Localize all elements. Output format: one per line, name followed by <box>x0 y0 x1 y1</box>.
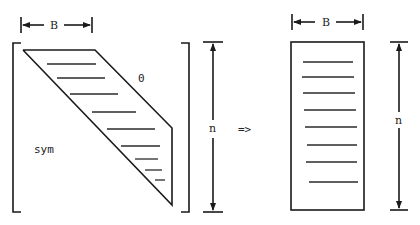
left-matrix-brackets <box>13 43 189 212</box>
left-size-label: n <box>209 122 216 135</box>
right-band-storage <box>291 42 364 210</box>
left-bandwidth-label: B <box>50 19 58 32</box>
right-bandwidth-dimension: B <box>292 14 363 30</box>
transform-arrow: => <box>238 123 252 136</box>
left-size-dimension: n <box>203 42 223 212</box>
zero-region-label: 0 <box>138 72 145 85</box>
right-size-label: n <box>395 114 402 127</box>
right-size-dimension: n <box>390 42 408 210</box>
banded-matrix-diagram: B 0 sym n => B <box>0 0 420 225</box>
left-band-region <box>23 50 172 205</box>
left-bandwidth-dimension: B <box>21 17 92 33</box>
right-bandwidth-label: B <box>322 16 330 29</box>
sym-region-label: sym <box>34 143 54 156</box>
